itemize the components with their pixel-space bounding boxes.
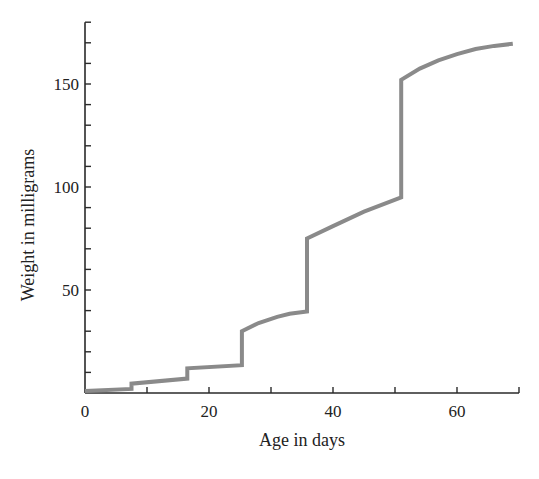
x-tick-label: 60: [449, 402, 466, 421]
y-tick-label: 50: [62, 281, 79, 300]
x-tick-label: 0: [81, 402, 90, 421]
growth-chart: 0204060 50100150 Age in days Weight in m…: [0, 0, 539, 479]
y-tick-label: 100: [54, 178, 80, 197]
x-axis-label: Age in days: [259, 430, 345, 450]
y-axis-label: Weight in milligrams: [18, 149, 38, 302]
y-tick-label: 150: [54, 75, 80, 94]
y-axis: 50100150: [54, 22, 92, 393]
weight-curve: [85, 44, 513, 391]
x-tick-label: 20: [201, 402, 218, 421]
x-tick-label: 40: [325, 402, 342, 421]
x-axis: 0204060: [81, 387, 519, 421]
